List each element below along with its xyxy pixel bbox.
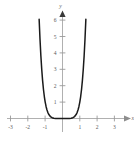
- x-tick-label: 2: [96, 124, 99, 130]
- plot-canvas: x y -3 -2 -1 1 2 3: [0, 0, 134, 142]
- x-tick-label: -2: [25, 124, 30, 130]
- x-tick-label: -3: [8, 124, 13, 130]
- y-tick-label: 5: [54, 34, 57, 40]
- y-tick-label: 2: [54, 83, 57, 89]
- y-tick-label: 4: [54, 50, 57, 56]
- x-axis-arrowhead-icon: [124, 115, 131, 121]
- y-axis-arrowhead-icon: [59, 11, 65, 18]
- x-axis-label: x: [131, 115, 135, 121]
- y-axis-label: y: [58, 3, 62, 9]
- function-graph-figure: x y -3 -2 -1 1 2 3: [0, 0, 134, 142]
- x-tick-label: 1: [78, 124, 81, 130]
- y-axis-tick-labels: 1 2 3 4 5 6: [54, 17, 57, 105]
- x-tick-label: -1: [43, 124, 48, 130]
- x-tick-label: 3: [113, 124, 116, 130]
- y-tick-label: 6: [54, 17, 57, 23]
- y-tick-label: 3: [54, 66, 57, 72]
- y-tick-label: 1: [54, 99, 57, 105]
